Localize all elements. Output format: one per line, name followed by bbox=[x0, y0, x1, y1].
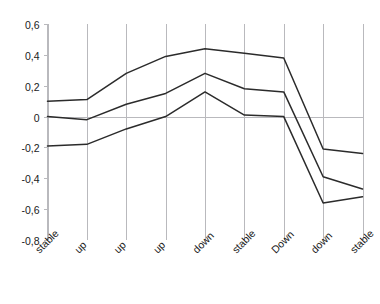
x-axis-labels: stableupupupdownstableDowndownstable bbox=[32, 227, 375, 255]
y-axis-ticks bbox=[44, 25, 48, 241]
x-tick-label-2: up bbox=[111, 239, 128, 256]
line-chart: 0,60,40,20-0,2-0,4-0,6-0,8 stableupupupd… bbox=[0, 0, 380, 304]
y-tick-label: 0,4 bbox=[25, 50, 40, 62]
x-tick-label-1: up bbox=[72, 239, 89, 256]
y-tick-label: -0,6 bbox=[21, 204, 39, 216]
y-tick-label: -0,4 bbox=[21, 173, 39, 185]
x-tick-label-8: stable bbox=[347, 227, 375, 255]
x-tick-label-3: up bbox=[151, 239, 168, 256]
x-tick-label-7: down bbox=[308, 229, 334, 255]
y-tick-label: 0,2 bbox=[25, 81, 40, 93]
x-tick-label-5: stable bbox=[229, 227, 257, 255]
y-tick-label: 0 bbox=[34, 112, 40, 124]
y-tick-label: -0,2 bbox=[21, 142, 39, 154]
y-tick-label: 0,6 bbox=[25, 19, 40, 31]
x-tick-label-4: down bbox=[190, 229, 216, 255]
x-tick-label-6: Down bbox=[269, 228, 297, 256]
y-axis-labels: 0,60,40,20-0,2-0,4-0,6-0,8 bbox=[21, 19, 39, 247]
chart-plot-area: 0,60,40,20-0,2-0,4-0,6-0,8 stableupupupd… bbox=[0, 0, 380, 304]
